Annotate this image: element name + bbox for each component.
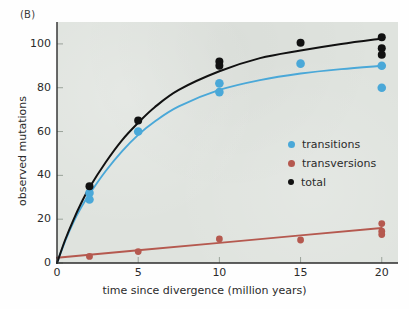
data-point-total bbox=[378, 33, 386, 41]
data-point-transitions bbox=[377, 62, 386, 71]
legend-label: transitions bbox=[302, 138, 360, 151]
data-point-transitions bbox=[134, 127, 143, 136]
x-tick-label: 10 bbox=[204, 266, 234, 279]
data-point-transitions bbox=[85, 195, 94, 204]
data-point-total bbox=[378, 51, 386, 59]
x-tick-label: 15 bbox=[286, 266, 316, 279]
legend-item-total: total bbox=[288, 174, 376, 190]
legend-item-transitions: transitions bbox=[288, 136, 376, 152]
figure-panel-b: (B) 020406080100 05101520 observed mutat… bbox=[0, 0, 409, 309]
data-point-total bbox=[297, 39, 305, 47]
legend-label: transversions bbox=[302, 157, 376, 170]
data-point-total bbox=[215, 62, 223, 70]
data-point-total bbox=[85, 182, 93, 190]
legend-marker-dot-icon bbox=[288, 160, 295, 167]
data-point-transitions bbox=[377, 83, 386, 92]
legend-label: total bbox=[301, 176, 326, 189]
data-point-transversions bbox=[297, 237, 304, 244]
data-point-transversions bbox=[135, 248, 142, 255]
x-tick-label: 20 bbox=[367, 266, 397, 279]
x-axis-title: time since divergence (million years) bbox=[0, 284, 409, 297]
x-tick-label: 5 bbox=[123, 266, 153, 279]
data-point-transversions bbox=[378, 220, 385, 227]
data-point-total bbox=[134, 117, 142, 125]
y-tick-label: 80 bbox=[11, 81, 51, 94]
data-point-transversions bbox=[216, 236, 223, 243]
x-tick-label: 0 bbox=[42, 266, 72, 279]
data-point-transversions bbox=[86, 253, 93, 260]
y-axis-title: observed mutations bbox=[16, 96, 29, 206]
y-tick-label: 100 bbox=[11, 37, 51, 50]
legend-marker-dot-icon bbox=[288, 141, 295, 148]
chart-legend: transitionstransversionstotal bbox=[288, 136, 376, 193]
data-point-transitions bbox=[215, 79, 224, 88]
y-tick-label: 20 bbox=[11, 212, 51, 225]
data-point-transitions bbox=[215, 88, 224, 97]
data-point-transitions bbox=[296, 59, 305, 68]
legend-item-transversions: transversions bbox=[288, 155, 376, 171]
legend-marker-dot-icon bbox=[288, 179, 294, 185]
fit-curve-transversions bbox=[57, 228, 382, 258]
data-point-transversions bbox=[378, 231, 385, 238]
